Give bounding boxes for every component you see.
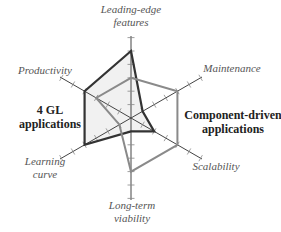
series-label-line: 4 GL: [37, 103, 63, 117]
axis-label-2: Scalability: [192, 160, 239, 172]
series-label-0: 4 GLapplications: [19, 103, 81, 131]
axis-tick: [152, 102, 156, 108]
axis-label-line: Leading-edge: [100, 3, 162, 15]
axis-line-2: [131, 118, 202, 159]
axis-label-line: Maintenance: [202, 62, 261, 74]
axis-label-line: Scalability: [192, 160, 239, 172]
axis-label-5: Productivity: [17, 64, 72, 76]
axis-label-line: Long-term: [108, 199, 156, 211]
axis-label-line: curve: [33, 168, 58, 180]
axis-label-1: Maintenance: [202, 62, 261, 74]
axes-group: [60, 36, 203, 200]
axis-tick: [187, 81, 191, 87]
axis-tick: [71, 148, 75, 154]
axis-label-4: Learningcurve: [24, 155, 66, 180]
axis-label-line: viability: [114, 212, 150, 224]
axis-label-3: Long-termviability: [108, 199, 156, 224]
axis-tick: [164, 135, 168, 141]
axis-tick: [187, 148, 191, 154]
axis-label-line: features: [113, 16, 148, 28]
axis-tick: [199, 75, 203, 81]
series-label-1: Component-drivenapplications: [184, 108, 281, 136]
axis-label-line: Productivity: [17, 64, 72, 76]
axis-tick: [71, 81, 75, 87]
series-label-line: applications: [202, 122, 264, 136]
series-label-line: applications: [19, 117, 81, 131]
axis-label-0: Leading-edgefeatures: [100, 3, 162, 28]
axis-label-line: Learning: [24, 155, 66, 167]
series-label-line: Component-driven: [184, 108, 281, 122]
axis-tick: [164, 95, 168, 101]
radar-chart: Leading-edgefeaturesMaintenanceScalabili…: [0, 0, 281, 232]
